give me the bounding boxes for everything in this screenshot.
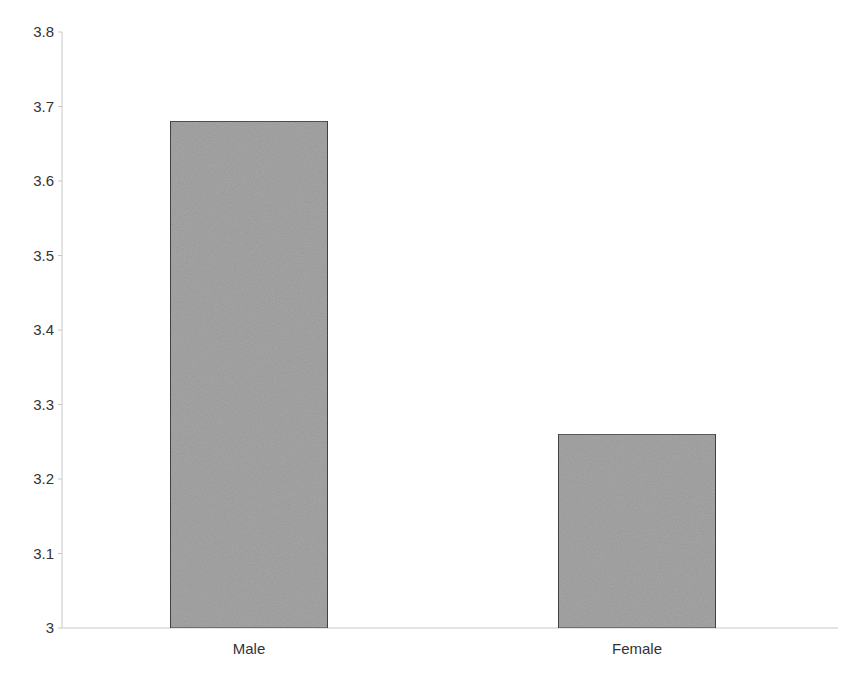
y-tick-label: 3.4	[33, 321, 54, 338]
x-category-label: Male	[233, 640, 266, 657]
x-category-label: Female	[612, 640, 662, 657]
y-tick-label: 3.8	[33, 23, 54, 40]
bar-male	[171, 121, 328, 628]
y-tick-label: 3.2	[33, 470, 54, 487]
y-tick-label: 3	[46, 619, 54, 636]
y-axis: 33.13.23.33.43.53.63.73.8	[33, 23, 62, 636]
bars	[171, 121, 716, 628]
y-tick-label: 3.1	[33, 545, 54, 562]
x-axis: MaleFemale	[62, 628, 838, 657]
y-tick-label: 3.3	[33, 396, 54, 413]
bar-chart: 33.13.23.33.43.53.63.73.8 MaleFemale	[0, 0, 862, 682]
y-tick-label: 3.5	[33, 247, 54, 264]
y-tick-label: 3.6	[33, 172, 54, 189]
y-tick-label: 3.7	[33, 98, 54, 115]
bar-female	[559, 434, 716, 628]
